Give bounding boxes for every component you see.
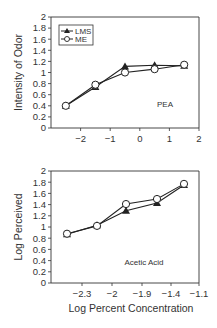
y-tick-label: 0 <box>41 122 46 133</box>
y-tick-label: 0.2 <box>33 111 46 122</box>
x-tick-label: 2 <box>196 133 201 144</box>
chart-panel-1: 00.20.40.60.811.21.41.61.82−2−1012Intens… <box>12 11 202 144</box>
y-tick-label: 1.2 <box>33 210 46 221</box>
x-axis-label: Log Percent Concentration <box>69 302 194 314</box>
panel-annotation: Acetic Acid <box>124 258 163 267</box>
y-tick-label: 1.4 <box>33 199 46 210</box>
y-tick-label: 1.4 <box>33 45 46 56</box>
y-tick-label: 1.8 <box>33 22 46 33</box>
circle-marker <box>92 81 99 88</box>
y-tick-label: 0 <box>41 277 46 288</box>
x-tick-label: −1.4 <box>162 288 181 299</box>
x-tick-label: −1.1 <box>190 288 209 299</box>
y-axis-label: Intensity of Odor <box>12 33 24 111</box>
y-tick-label: 1.6 <box>33 188 46 199</box>
x-tick-label: −2.3 <box>73 288 92 299</box>
y-tick-label: 0.4 <box>33 100 46 111</box>
x-tick-label: 1 <box>167 133 172 144</box>
y-tick-label: 0.4 <box>33 255 46 266</box>
chart-panel-2: 00.20.40.60.811.21.41.61.82−2.3−2−1.9−1.… <box>12 165 208 314</box>
y-tick-label: 0.8 <box>33 78 46 89</box>
circle-marker <box>63 230 70 237</box>
x-tick-label: −1.9 <box>133 288 152 299</box>
y-tick-label: 1 <box>41 67 46 78</box>
y-tick-label: 1 <box>41 221 46 232</box>
circle-marker <box>181 61 188 68</box>
circle-marker <box>62 102 69 109</box>
x-tick-label: −2 <box>75 133 86 144</box>
y-tick-label: 0.2 <box>33 266 46 277</box>
x-tick-label: 0 <box>137 133 142 144</box>
y-tick-label: 1.2 <box>33 56 46 67</box>
legend-label: ME <box>75 35 87 44</box>
circle-marker <box>93 222 100 229</box>
legend-circle-icon <box>65 37 70 42</box>
y-tick-label: 2 <box>41 165 46 176</box>
x-tick-label: −1 <box>105 133 116 144</box>
y-tick-label: 0.6 <box>33 244 46 255</box>
circle-marker <box>121 69 128 76</box>
chart-figure: 00.20.40.60.811.21.41.61.82−2−1012Intens… <box>0 0 217 328</box>
y-tick-label: 1.8 <box>33 177 46 188</box>
y-tick-label: 0.6 <box>33 89 46 100</box>
circle-marker <box>122 200 129 207</box>
circle-marker <box>153 195 160 202</box>
y-tick-label: 2 <box>41 11 46 22</box>
y-tick-label: 1.6 <box>33 34 46 45</box>
x-tick-label: −2 <box>107 288 118 299</box>
y-tick-label: 0.8 <box>33 233 46 244</box>
legend: LMSME <box>59 25 93 45</box>
circle-marker <box>151 66 158 73</box>
panel-annotation: PEA <box>157 100 174 109</box>
y-axis-label: Log Perceived <box>12 193 24 260</box>
circle-marker <box>180 180 187 187</box>
